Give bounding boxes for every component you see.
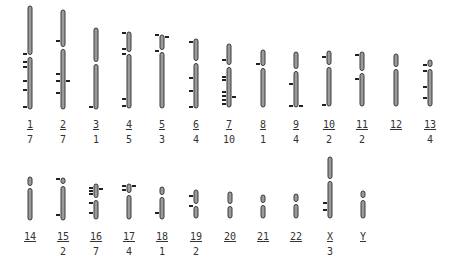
p-arm [227,44,231,65]
chromosome-1 [23,6,32,109]
q-arm [61,50,65,110]
marker-left [189,90,193,92]
marker-right [132,185,136,187]
marker-left [56,214,60,216]
q-arm [227,68,231,108]
marker-count: 2 [48,246,78,257]
marker-right [299,105,303,107]
marker-count: 3 [315,246,345,257]
p-arm [61,10,65,47]
chromosome-6 [189,39,198,108]
q-arm [294,205,298,219]
q-arm [160,53,164,109]
chromosome-label: 17 [114,231,144,242]
chromosome-15 [56,178,65,220]
chromosome-20 [228,192,232,218]
q-arm [160,198,164,220]
marker-left [222,79,226,81]
p-arm [160,35,164,50]
q-arm [327,68,331,107]
marker-left [89,187,93,189]
q-arm [261,69,265,108]
chromosome-7 [222,44,236,107]
q-arm [294,72,298,108]
marker-count: 1 [248,134,278,145]
chromosome-18 [155,187,164,219]
marker-count: 4 [181,134,211,145]
q-arm [394,70,398,107]
p-arm [394,54,398,67]
p-arm [294,52,298,69]
p-arm [327,51,331,65]
marker-left [355,54,359,56]
marker-left [423,86,427,88]
chromosome-21 [261,195,265,218]
marker-left [23,61,27,63]
chromosome-label: 15 [48,231,78,242]
p-arm [194,190,198,204]
q-arm [428,70,432,107]
marker-left [355,78,359,80]
marker-count: 2 [347,134,377,145]
q-arm [28,58,32,110]
chromosome-X [323,157,332,218]
chromosome-5 [155,34,169,108]
marker-left [189,195,193,197]
chromosome-label: 2 [48,119,78,130]
marker-left [256,63,260,65]
chromosome-label: Y [348,231,378,242]
chromosome-label: 21 [248,231,278,242]
chromosome-8 [256,50,265,107]
p-arm [127,32,131,52]
marker-left [322,104,326,106]
marker-left [122,98,126,100]
marker-right [99,188,103,190]
chromosome-label: 8 [248,119,278,130]
marker-left [323,202,327,204]
chromosome-label: 7 [214,119,244,130]
q-arm [61,187,65,221]
marker-left [56,92,60,94]
p-arm [127,184,131,193]
marker-count: 7 [15,134,45,145]
p-arm [261,50,265,66]
chromosome-label: 18 [147,231,177,242]
marker-right [232,96,236,98]
p-arm [28,177,32,186]
marker-left [89,212,93,214]
chromosome-label: 5 [147,119,177,130]
marker-left [122,32,126,34]
q-arm [127,196,131,220]
q-arm [94,201,98,220]
marker-count: 4 [114,246,144,257]
chromosome-22 [294,194,298,218]
chromosome-label: 1 [15,119,45,130]
marker-left [122,189,126,191]
marker-left [222,103,226,105]
marker-count: 1 [147,246,177,257]
marker-left [222,76,226,78]
marker-count: 7 [81,246,111,257]
marker-left [23,66,27,68]
marker-left [189,77,193,79]
marker-left [323,209,327,211]
marker-left [423,64,427,66]
p-arm [194,39,198,61]
q-arm [194,64,198,109]
chromosome-label: 12 [381,119,411,130]
marker-left [155,212,159,214]
marker-left [322,56,326,58]
marker-left [289,83,293,85]
chromosome-9 [289,52,303,107]
chromosome-label: 4 [114,119,144,130]
chromosome-label: 20 [215,231,245,242]
q-arm [361,201,365,219]
marker-count: 7 [48,134,78,145]
q-arm [194,207,198,219]
q-arm [360,74,364,107]
p-arm [261,195,265,203]
p-arm [361,191,365,198]
marker-left [155,34,159,36]
chromosome-13 [423,60,432,106]
marker-left [222,59,226,61]
